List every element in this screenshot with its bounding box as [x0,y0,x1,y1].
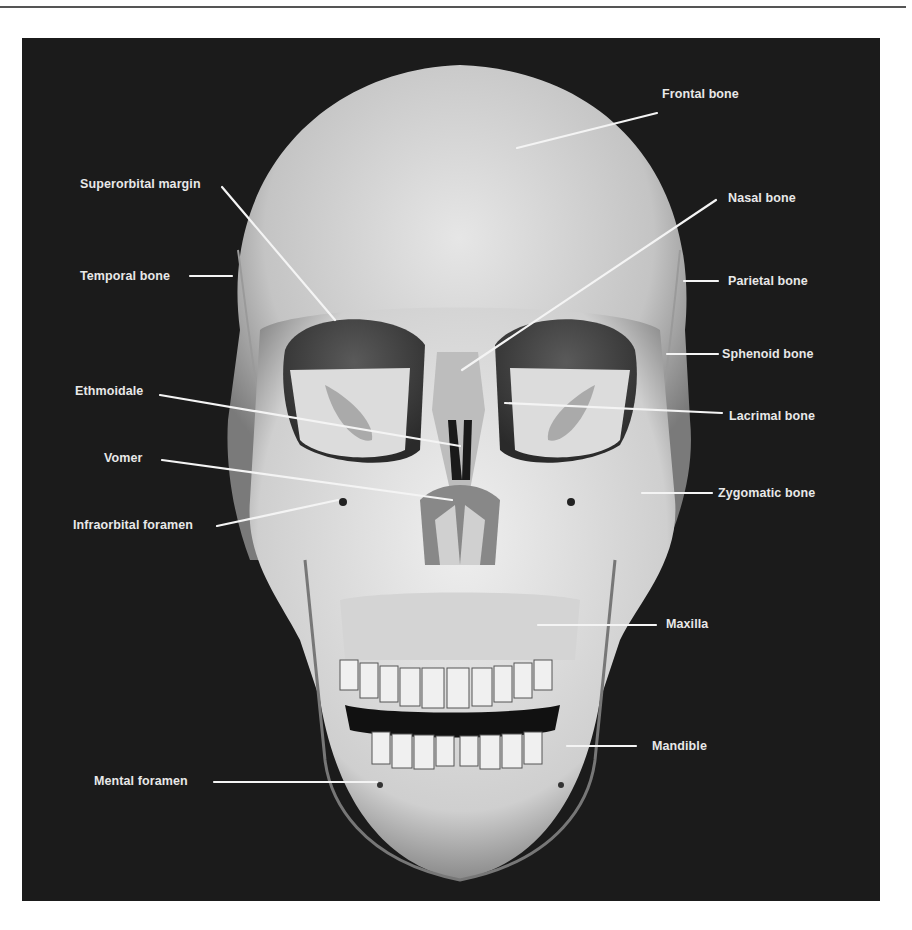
label-infraorbital-foramen: Infraorbital foramen [73,518,193,532]
label-temporal-bone: Temporal bone [80,269,170,283]
label-mandible: Mandible [652,739,707,753]
label-sphenoid-bone: Sphenoid bone [722,347,814,361]
skull-diagram-panel [22,38,880,901]
label-lacrimal-bone: Lacrimal bone [729,409,815,423]
page-header-rule [0,6,906,8]
label-superorbital-margin: Superorbital margin [80,177,201,191]
skull-illustration [22,38,880,901]
label-frontal-bone: Frontal bone [662,87,739,101]
label-ethmoidale: Ethmoidale [75,384,143,398]
label-maxilla: Maxilla [666,617,708,631]
label-parietal-bone: Parietal bone [728,274,808,288]
label-zygomatic-bone: Zygomatic bone [718,486,815,500]
label-nasal-bone: Nasal bone [728,191,796,205]
facial-skeleton [250,308,676,881]
label-vomer: Vomer [104,451,142,465]
label-mental-foramen: Mental foramen [94,774,188,788]
